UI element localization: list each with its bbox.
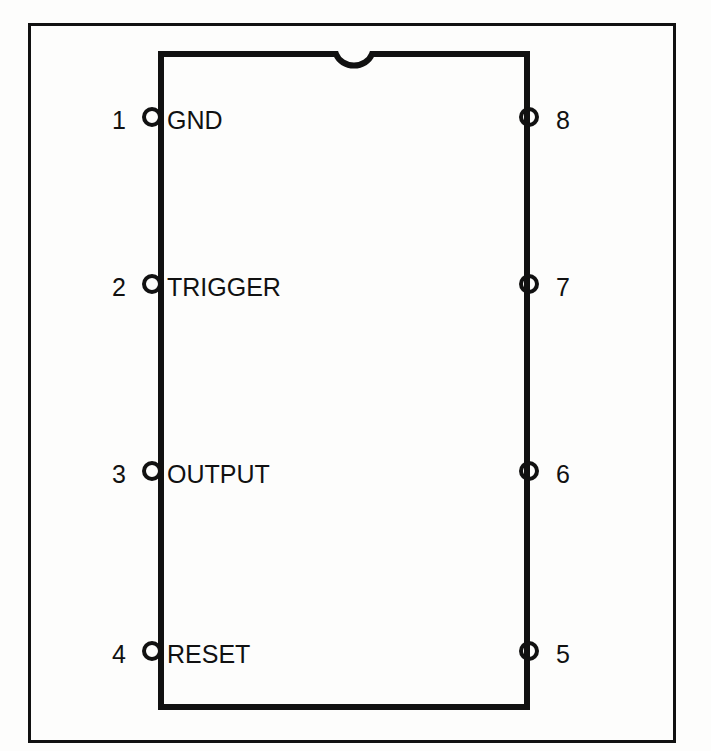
pin-number-2: 2: [112, 275, 126, 300]
pin-number-5: 5: [556, 642, 570, 667]
pin-number-3: 3: [112, 462, 126, 487]
pin-circle-2[interactable]: [142, 274, 162, 294]
pin-label-4: RESET: [167, 642, 250, 667]
pin-label-1: GND: [167, 108, 223, 133]
pin-label-3: OUTPUT: [167, 462, 270, 487]
pin-circle-3[interactable]: [142, 461, 162, 481]
pin-number-4: 4: [112, 642, 126, 667]
pin-number-1: 1: [112, 108, 126, 133]
pin-number-7: 7: [556, 275, 570, 300]
pin-circle-1[interactable]: [142, 107, 162, 127]
pinout-diagram-page: 1 GND 2 TRIGGER 3 OUTPUT 4 RESET +Vcc 8 …: [0, 0, 711, 751]
pin-circle-6[interactable]: [519, 461, 539, 481]
pin-circle-8[interactable]: [519, 107, 539, 127]
pin-circle-7[interactable]: [519, 274, 539, 294]
pin-number-6: 6: [556, 462, 570, 487]
pin-number-8: 8: [556, 108, 570, 133]
ic-body-outline: [0, 0, 711, 751]
pin-circle-4[interactable]: [142, 641, 162, 661]
pin-label-2: TRIGGER: [167, 275, 281, 300]
pin-circle-5[interactable]: [519, 641, 539, 661]
